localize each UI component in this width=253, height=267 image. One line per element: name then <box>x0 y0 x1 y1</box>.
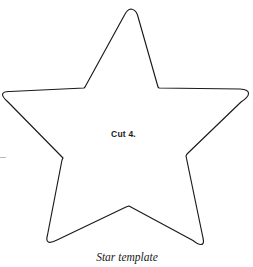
cut-instruction-label: Cut 4. <box>0 129 247 140</box>
page-canvas: Cut 4. Star template <box>0 0 253 267</box>
star-outline-path <box>2 9 248 245</box>
left-margin-artifact <box>0 157 6 158</box>
figure-caption: Star template <box>0 250 253 264</box>
